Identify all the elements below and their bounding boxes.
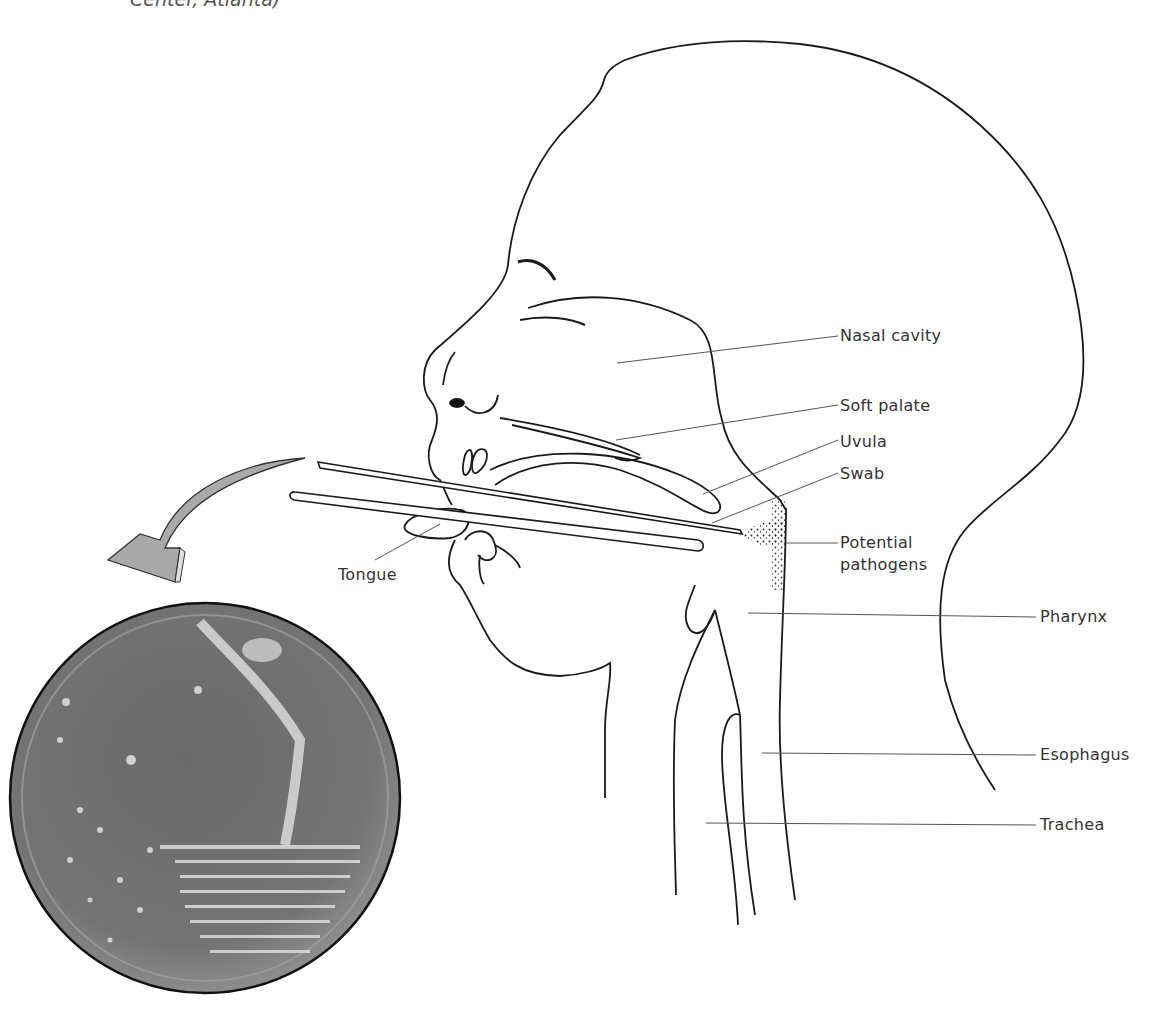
label-tongue: Tongue xyxy=(338,565,397,585)
swab-sticks xyxy=(290,462,742,551)
label-esophagus: Esophagus xyxy=(1040,745,1130,765)
label-trachea: Trachea xyxy=(1040,815,1105,835)
curved-arrow-icon xyxy=(108,458,305,582)
label-potential-pathogens-2: pathogens xyxy=(840,555,927,575)
label-nasal-cavity: Nasal cavity xyxy=(840,326,941,346)
label-uvula: Uvula xyxy=(840,432,887,452)
label-swab: Swab xyxy=(840,464,884,484)
label-leader-lines xyxy=(375,336,1036,825)
head-outline xyxy=(404,41,1083,925)
petri-dish-culture xyxy=(10,603,400,993)
label-potential-pathogens-1: Potential xyxy=(840,533,913,553)
throat-swab-diagram xyxy=(0,0,1154,1012)
label-soft-palate: Soft palate xyxy=(840,396,930,416)
label-pharynx: Pharynx xyxy=(1040,607,1107,627)
pathogens-stipple xyxy=(740,500,787,590)
